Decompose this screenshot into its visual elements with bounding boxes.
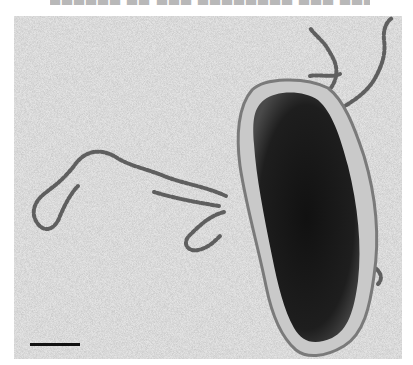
electron-micrograph bbox=[14, 16, 402, 359]
cropped-caption-glyphs: ▆▆▆▆▆▆ ▆▆ ▆▆▆ ▆▆▆▆▆▆▆▆ ▆▆▆ ▆▆▆▆▆▆▆▆▆▆ bbox=[50, 0, 370, 5]
scale-bar bbox=[30, 343, 80, 346]
cropped-caption-text: ▆▆▆▆▆▆ ▆▆ ▆▆▆ ▆▆▆▆▆▆▆▆ ▆▆▆ ▆▆▆▆▆▆▆▆▆▆ bbox=[50, 0, 370, 5]
